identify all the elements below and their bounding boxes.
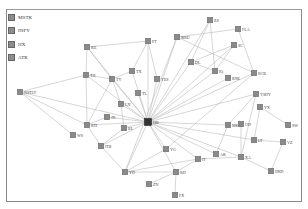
- graph-node-hub[interactable]: HB: [145, 119, 159, 126]
- graph-edge: [260, 107, 288, 125]
- node-square-icon: [174, 34, 180, 40]
- graph-node-dl[interactable]: DL: [188, 59, 201, 65]
- graph-node-itb[interactable]: ITB: [98, 143, 112, 149]
- node-label: NSTLY: [24, 90, 37, 95]
- graph-node-it[interactable]: IT: [195, 156, 206, 162]
- graph-edge: [132, 41, 148, 71]
- graph-node-zn[interactable]: ZN: [146, 181, 158, 187]
- node-label: HB: [153, 120, 159, 125]
- node-label: IT: [202, 157, 206, 162]
- node-label: JN: [111, 115, 116, 120]
- graph-node-od[interactable]: OD: [238, 121, 251, 127]
- graph-node-rl[interactable]: RL: [121, 125, 133, 131]
- legend-swatch-icon: [8, 54, 15, 61]
- graph-node-drd[interactable]: DRD: [268, 168, 283, 174]
- node-label: TL: [142, 91, 147, 96]
- node-square-icon: [235, 26, 241, 32]
- graph-node-rs[interactable]: RS: [207, 17, 219, 23]
- graph-edge: [20, 92, 148, 122]
- graph-edge: [210, 20, 215, 71]
- graph-node-th[interactable]: TH: [83, 72, 95, 78]
- legend-item-atk: ATK: [8, 53, 32, 63]
- graph-node-fla[interactable]: FLA: [235, 26, 249, 32]
- node-label: RCB: [258, 71, 266, 76]
- graph-node-ws[interactable]: WS: [70, 132, 83, 138]
- graph-node-ty[interactable]: TY: [109, 76, 121, 82]
- node-label: YSDY: [260, 92, 271, 97]
- node-square-icon: [146, 181, 152, 187]
- graph-node-yes[interactable]: YES: [154, 76, 168, 82]
- graph-node-msu[interactable]: MSU: [174, 34, 190, 40]
- graph-node-iq[interactable]: IQ: [212, 68, 223, 74]
- graph-node-rne[interactable]: RNE: [225, 75, 240, 81]
- node-square-icon: [195, 156, 201, 162]
- graph-node-jn[interactable]: JN: [104, 114, 115, 120]
- node-label: VZ: [287, 140, 293, 145]
- node-square-icon: [213, 151, 219, 157]
- node-label: YES: [161, 77, 169, 82]
- legend-swatch-icon: [8, 27, 15, 34]
- node-label: WS: [77, 133, 83, 138]
- graph-node-ln[interactable]: LN: [118, 101, 130, 107]
- node-label: YD: [129, 170, 135, 175]
- node-square-icon: [70, 132, 76, 138]
- graph-edge: [148, 78, 228, 122]
- graph-node-yd[interactable]: YD: [122, 169, 135, 175]
- node-label: SC: [238, 43, 243, 48]
- node-label: OD: [245, 122, 251, 127]
- node-label: RL: [128, 126, 134, 131]
- node-label: PT: [152, 39, 157, 44]
- graph-node-bh[interactable]: BH: [173, 169, 185, 175]
- graph-node-yx[interactable]: YX: [257, 104, 270, 110]
- node-label: TY: [116, 77, 121, 82]
- node-square-icon: [163, 146, 169, 152]
- legend-item-hx: HX: [8, 39, 32, 49]
- graph-node-ysdy[interactable]: YSDY: [253, 91, 271, 97]
- hub-square-icon: [145, 119, 152, 126]
- legend-item-mstk: MSTK: [8, 12, 32, 22]
- graph-node-rti[interactable]: RTI: [84, 122, 98, 128]
- node-label: BH: [180, 170, 186, 175]
- node-square-icon: [188, 59, 194, 65]
- node-label: RNE: [232, 76, 241, 81]
- node-label: RTI: [91, 123, 98, 128]
- graph-node-lt[interactable]: LT: [251, 137, 263, 143]
- graph-edge: [148, 122, 228, 125]
- node-label: TH: [90, 73, 95, 78]
- node-square-icon: [251, 137, 257, 143]
- node-label: TX: [136, 69, 141, 74]
- node-label: IQ: [219, 69, 223, 74]
- graph-node-sw[interactable]: SW: [285, 122, 298, 128]
- graph-edge: [148, 122, 216, 154]
- node-square-icon: [84, 44, 90, 50]
- graph-edge: [20, 92, 87, 125]
- graph-node-rcb[interactable]: RCB: [251, 70, 266, 76]
- graph-node-ke[interactable]: KE: [84, 44, 97, 50]
- network-graph: KEPTTXYESTLTHTYNSTLYLNJNRTIRLWSITBYDYGIT…: [0, 0, 308, 209]
- graph-node-tx[interactable]: TX: [129, 68, 141, 74]
- graph-node-tl[interactable]: TL: [135, 90, 147, 96]
- node-square-icon: [238, 121, 244, 127]
- graph-node-nstly[interactable]: NSTLY: [17, 89, 36, 95]
- graph-node-vz[interactable]: VZ: [280, 139, 293, 145]
- graph-node-fx[interactable]: FX: [172, 192, 184, 198]
- node-square-icon: [109, 76, 115, 82]
- graph-edge: [86, 47, 87, 75]
- node-square-icon: [84, 122, 90, 128]
- node-label: FLA: [242, 27, 250, 32]
- node-square-icon: [268, 168, 274, 174]
- graph-node-xa[interactable]: XA: [238, 154, 251, 160]
- graph-node-yg[interactable]: YG: [163, 146, 176, 152]
- graph-edge: [138, 93, 148, 122]
- edge-layer: [20, 20, 288, 195]
- legend-swatch-icon: [8, 14, 15, 21]
- node-square-icon: [280, 139, 286, 145]
- graph-edge: [125, 37, 177, 172]
- node-label: KE: [91, 45, 97, 50]
- node-label: LN: [125, 102, 130, 107]
- node-square-icon: [225, 75, 231, 81]
- graph-node-sc[interactable]: SC: [231, 42, 243, 48]
- graph-node-pt[interactable]: PT: [145, 38, 157, 44]
- graph-node-ak[interactable]: AK: [213, 151, 226, 157]
- legend-swatch-icon: [8, 41, 15, 48]
